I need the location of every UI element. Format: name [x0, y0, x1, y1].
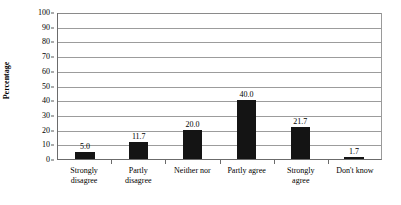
bar-value-label: 21.7: [293, 117, 307, 126]
y-axis-tick-mark: [51, 42, 54, 43]
x-axis-category-label-line: disagree: [112, 176, 164, 186]
y-axis-tick-label: 90: [42, 24, 50, 32]
x-axis-category-label: Stronglyagree: [274, 166, 328, 186]
y-axis-tick-mark: [51, 71, 54, 72]
bar: 11.7: [129, 142, 148, 159]
y-axis-tick-mark: [51, 57, 54, 58]
y-axis-tick-mark: [51, 130, 54, 131]
bar-value-label: 11.7: [132, 132, 146, 141]
y-axis-tick-label: 60: [42, 68, 50, 76]
bar: 21.7: [291, 127, 310, 159]
x-axis-tick-mark: [220, 160, 221, 164]
y-axis-title: Percentage: [0, 0, 14, 160]
bar-chart: Percentage 0102030405060708090100 5.011.…: [0, 0, 401, 205]
y-axis-tick-label: 40: [42, 97, 50, 105]
y-axis-tick-mark: [51, 27, 54, 28]
plot-area: 5.011.720.040.021.71.7: [57, 13, 382, 160]
y-axis-tick-label: 50: [42, 83, 50, 91]
y-axis-tick-label: 80: [42, 38, 50, 46]
x-axis-category-label-line: Partly agree: [221, 166, 273, 176]
y-axis-title-text: Percentage: [3, 61, 12, 99]
y-axis-tick-mark: [51, 101, 54, 102]
y-axis-tick-labels: 0102030405060708090100: [16, 13, 54, 160]
bar-slot: 21.7: [273, 13, 327, 159]
bar-slot: 20.0: [166, 13, 220, 159]
x-axis-category-label-line: disagree: [58, 176, 110, 186]
bar: 40.0: [237, 100, 256, 159]
x-axis-category-label: Stronglydisagree: [57, 166, 111, 186]
x-axis-category-label-line: Neither nor: [166, 166, 218, 176]
y-axis-tick-label: 0: [46, 156, 50, 164]
bar-slot: 1.7: [327, 13, 381, 159]
x-axis-tick-mark: [328, 160, 329, 164]
x-axis-category-label-line: Partly: [112, 166, 164, 176]
y-axis-tick-label: 100: [38, 9, 50, 17]
x-axis-category-label-line: agree: [275, 176, 327, 186]
x-axis-category-labels: StronglydisagreePartlydisagreeNeither no…: [57, 166, 382, 186]
x-axis-category-label-line: Strongly: [58, 166, 110, 176]
bars-layer: 5.011.720.040.021.71.7: [58, 13, 381, 159]
bar-slot: 11.7: [112, 13, 166, 159]
y-axis-tick-label: 70: [42, 53, 50, 61]
bar-slot: 5.0: [58, 13, 112, 159]
bar: 5.0: [75, 152, 94, 159]
x-axis-tick-mark: [111, 160, 112, 164]
y-axis-tick-label: 10: [42, 141, 50, 149]
y-axis-tick-mark: [51, 86, 54, 87]
x-axis-tick-mark: [165, 160, 166, 164]
bar: 1.7: [344, 157, 363, 159]
bar-value-label: 5.0: [80, 142, 90, 151]
x-axis-category-label-line: Strongly: [275, 166, 327, 176]
y-axis-tick-label: 30: [42, 112, 50, 120]
x-axis-tick-mark: [274, 160, 275, 164]
x-axis-category-label: Partlydisagree: [111, 166, 165, 186]
x-axis-category-label: Partly agree: [220, 166, 274, 186]
bar-slot: 40.0: [219, 13, 273, 159]
x-axis-category-label-line: Don't know: [329, 166, 381, 176]
y-axis-tick-mark: [51, 160, 54, 161]
y-axis-tick-label: 20: [42, 127, 50, 135]
bar-value-label: 20.0: [186, 120, 200, 129]
y-axis-tick-mark: [51, 145, 54, 146]
bar-value-label: 40.0: [239, 90, 253, 99]
y-axis-tick-mark: [51, 115, 54, 116]
y-axis-tick-mark: [51, 13, 54, 14]
x-axis-tick-marks: [57, 160, 382, 164]
bar-value-label: 1.7: [349, 147, 359, 156]
x-axis-category-label: Neither nor: [165, 166, 219, 186]
bar: 20.0: [183, 130, 202, 159]
x-axis-category-label: Don't know: [328, 166, 382, 186]
